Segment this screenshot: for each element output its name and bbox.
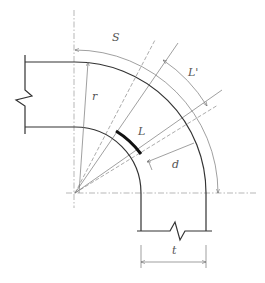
label-S: S: [112, 31, 120, 44]
inner-pipe-wall: [25, 127, 141, 231]
label-t: t: [172, 244, 177, 257]
radial-extension-upper: [75, 43, 178, 193]
label-L-prime: L': [187, 66, 198, 79]
dimension-d-line: [147, 143, 194, 162]
radial-extension-lower: [75, 90, 222, 193]
label-L: L: [137, 125, 145, 138]
dimension-d-tick: [148, 160, 152, 170]
label-d: d: [172, 158, 179, 171]
outer-pipe-wall: [25, 62, 206, 231]
pipe-bend-diagram: S L' r L d t: [0, 0, 265, 283]
left-break-line: [16, 55, 32, 134]
label-r: r: [92, 90, 98, 103]
dimension-L-prime-arc: [163, 60, 207, 106]
bottom-break-line: [137, 222, 212, 240]
